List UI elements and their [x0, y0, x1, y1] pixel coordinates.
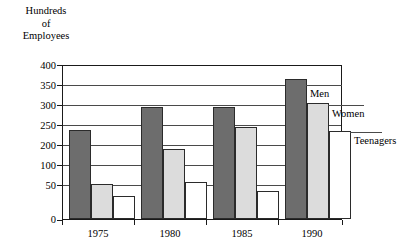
bar-women-1980 [163, 149, 185, 219]
y-tick-label-0: 0 [20, 215, 56, 226]
legend-label-women: Women [332, 108, 364, 119]
x-tick-mark-start [62, 220, 63, 225]
x-tick-mark-1980 [206, 220, 207, 225]
bar-men-1975 [69, 130, 91, 219]
bar-teenagers-1985 [257, 191, 279, 219]
legend-leader-women [328, 105, 364, 106]
bar-women-1985 [235, 127, 257, 219]
x-axis-label-1980: 1980 [140, 228, 200, 239]
x-tick-mark-1990 [342, 220, 343, 225]
y-axis-title-line-1: Hundreds [4, 5, 88, 18]
bar-men-1985 [213, 107, 235, 219]
x-axis-label-1975: 1975 [68, 228, 128, 239]
bar-women-1990 [307, 103, 329, 219]
legend-label-men: Men [310, 88, 329, 99]
x-tick-mark-1975 [134, 220, 135, 225]
legend-leader-men [306, 85, 342, 86]
bar-teenagers-1990 [329, 131, 351, 219]
y-tick-label-150: 100 [20, 161, 56, 172]
legend-label-teenagers: Teenagers [354, 135, 396, 146]
bar-chart: Hundreds of Employees 400 350 300 250 20… [0, 0, 413, 251]
y-axis-title: Hundreds of Employees [4, 5, 88, 43]
bar-men-1990 [285, 79, 307, 219]
bar-teenagers-1975 [113, 196, 135, 219]
bar-teenagers-1980 [185, 182, 207, 219]
x-tick-mark-1985 [278, 220, 279, 225]
y-axis-title-line-3: Employees [4, 30, 88, 43]
bar-women-1975 [91, 184, 113, 219]
y-tick-label-400: 400 [20, 61, 56, 72]
y-tick-label-300: 300 [20, 101, 56, 112]
bar-series-group [63, 66, 341, 219]
y-tick-label-250: 250 [20, 121, 56, 132]
y-tick-label-350: 350 [20, 81, 56, 92]
plot-area [62, 65, 342, 220]
legend-leader-teenagers [350, 132, 382, 133]
y-tick-label-200: 200 [20, 141, 56, 152]
y-axis-title-line-2: of [4, 18, 88, 31]
y-tick-label-50: 50 [20, 181, 56, 192]
bar-men-1980 [141, 107, 163, 219]
x-axis-label-1985: 1985 [212, 228, 272, 239]
x-axis-label-1990: 1990 [282, 228, 342, 239]
